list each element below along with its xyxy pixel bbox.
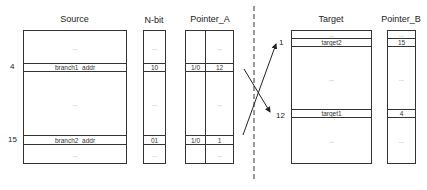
pointer-b-value: 4 [388, 109, 415, 118]
target-title: Target [291, 14, 371, 24]
pointer-b-table: ... 15 ... 4 ... [387, 30, 416, 164]
target-row-dots: ... [292, 118, 371, 164]
target-row-target1: target1 [292, 109, 371, 118]
arrow-to-target-1 [243, 44, 276, 135]
target-index-1: 1 [279, 38, 283, 47]
pointer-b-title: Pointer_B [380, 14, 422, 24]
pointer-b-row-dots: ... [388, 118, 415, 164]
target-table: ... target2 ... target1 ... [291, 30, 372, 164]
pointer-b-value: 15 [388, 38, 415, 47]
target-row-dots: ... [292, 47, 371, 110]
target-index-12: 12 [276, 111, 285, 120]
arrow-to-target-12 [244, 69, 270, 112]
target-row-target2: target2 [292, 38, 371, 47]
pointer-b-row-dots: ... [388, 47, 415, 110]
